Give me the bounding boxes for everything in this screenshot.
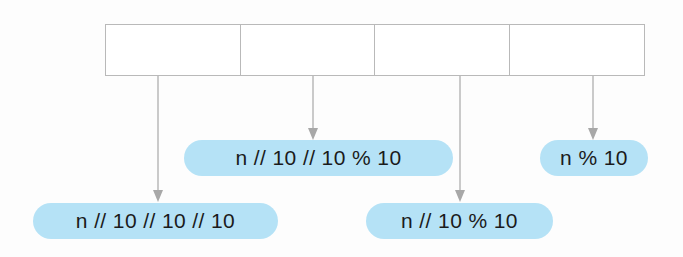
label-thousands-digit-text: n // 10 // 10 // 10 [76, 210, 235, 231]
digit-cell-ones [510, 25, 645, 75]
digit-cell-tens [375, 25, 510, 75]
label-thousands-digit: n // 10 // 10 // 10 [33, 203, 278, 239]
arrow-to-hundreds [305, 76, 321, 140]
label-tens-digit-text: n // 10 % 10 [401, 210, 518, 231]
digit-cell-thousands [106, 25, 241, 75]
digit-boxes-row [105, 24, 645, 76]
arrow-to-thousands [150, 76, 166, 202]
arrow-to-tens [452, 76, 468, 202]
diagram-canvas: n // 10 // 10 // 10 n // 10 // 10 % 10 n… [0, 0, 683, 257]
label-ones-digit: n % 10 [540, 140, 648, 176]
label-hundreds-digit: n // 10 // 10 % 10 [184, 140, 453, 176]
label-tens-digit: n // 10 % 10 [366, 203, 553, 239]
arrow-to-ones [585, 76, 601, 140]
label-ones-digit-text: n % 10 [560, 147, 628, 168]
digit-cell-hundreds [241, 25, 376, 75]
label-hundreds-digit-text: n // 10 // 10 % 10 [236, 147, 402, 168]
